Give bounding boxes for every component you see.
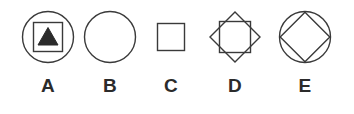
diamond-shape	[280, 12, 330, 62]
option-a-label: A	[41, 76, 55, 95]
option-b-shape-group	[78, 0, 142, 74]
option-a[interactable]: A	[16, 0, 80, 114]
option-d-shape-group	[203, 0, 267, 74]
option-d-label: D	[228, 76, 242, 95]
option-e[interactable]: E	[273, 0, 337, 114]
option-c[interactable]: C	[139, 0, 203, 114]
circle-shape	[85, 12, 136, 63]
circle-shape	[280, 12, 331, 63]
option-b[interactable]: B	[78, 0, 142, 114]
shape-options-figure: A B C D	[0, 0, 354, 114]
square-shape	[158, 24, 185, 51]
option-a-shape-group	[16, 0, 80, 74]
triangle-up-filled-shape	[38, 28, 58, 46]
option-c-label: C	[164, 76, 178, 95]
option-b-label: B	[103, 76, 117, 95]
option-c-shape-group	[139, 0, 203, 74]
square-shape	[220, 22, 251, 53]
option-d[interactable]: D	[203, 0, 267, 114]
option-e-label: E	[298, 76, 311, 95]
diamond-shape	[210, 12, 260, 62]
option-e-shape-group	[273, 0, 337, 74]
